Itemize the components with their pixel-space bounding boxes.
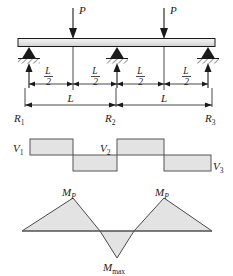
shear-label-v1: V1 [13,142,24,157]
dim-arrow-half-1-left [29,82,35,87]
support-middle-triangle [110,47,124,59]
reaction-label-2-subscript: 2 [112,118,116,127]
reaction-arrow-3-head [205,63,212,72]
moment-lobe-left-positive [22,198,100,231]
load-group-right: P [160,4,177,39]
dim-arrow-half-1-right [67,82,73,87]
dim-arrow-half-2-right [111,82,117,87]
dim-label-half-1-numerator: L [44,66,50,76]
dim-label-half-4-numerator: L [182,66,188,76]
moment-lobe-right-positive [134,198,212,231]
dim-arrow-half-3-right [158,82,164,87]
dim-label-half-3-denominator: 2 [138,77,143,87]
moment-label-mp-left: MP [61,186,76,201]
dim-label-half-1-denominator: 2 [46,77,51,87]
moment-label-mmax-subscript: max [112,267,125,276]
moment-label-mp-right: MP [154,186,169,201]
load-arrow-right-head [160,28,168,39]
load-label-left: P [78,4,86,16]
shear-label-v1-subscript: 1 [20,148,24,157]
load-group-left: P [69,4,86,39]
reaction-label-1-subscript: 1 [21,118,25,127]
dim-arrow-half-4-left [164,82,170,87]
support-right-triangle [201,47,215,59]
reaction-label-3: R3 [204,112,216,127]
support-left [18,47,40,64]
shear-label-v3: V3 [213,160,224,175]
reaction-arrow-1-head [26,63,33,72]
shear-block-1-positive [30,139,73,155]
reaction-label-2: R2 [104,112,116,127]
beam-member [18,39,215,47]
support-right-hatching [197,59,219,64]
dim-label-half-4-denominator: 2 [184,77,189,87]
beam-diagram-figure: P P [0,0,233,276]
reaction-arrow-2-head [114,63,121,72]
moment-label-mp-left-subscript: P [70,192,76,201]
span-dim-arrow-1-right [109,102,116,107]
shear-label-v3-subscript: 3 [220,166,224,175]
span-label-1: L [66,92,73,104]
moment-lobe-center-negative [100,231,134,258]
reaction-labels: R1 R2 R3 [13,112,216,127]
shear-block-2-negative [164,155,211,171]
dim-label-half-2-denominator: 2 [93,77,98,87]
dim-label-half-3-numerator: L [136,66,142,76]
reaction-label-3-subscript: 3 [212,118,216,127]
shear-label-v2-subscript: 2 [107,148,111,157]
load-label-right: P [169,4,177,16]
support-left-hatching [18,59,40,64]
span-dimension-row: L L [25,88,212,108]
moment-label-mp-right-subscript: P [163,192,169,201]
load-arrow-left-head [69,28,77,39]
moment-label-mmax: Mmax [102,261,125,276]
dim-label-half-2-numerator: L [91,66,97,76]
shear-label-v2: V2 [100,142,111,157]
moment-diagram: MP MP Mmax [22,186,212,276]
shear-block-2-positive [117,139,164,155]
support-left-triangle [22,47,36,59]
shear-diagram: V1 V2 V3 [13,139,224,175]
dim-arrow-half-3-left [117,82,123,87]
support-middle-hatching [106,59,128,64]
beam-diagram-svg: P P [0,0,233,276]
span-dim-arrow-2-right [205,102,212,107]
support-middle [106,47,128,64]
dim-arrow-half-2-left [73,82,79,87]
shear-block-1-negative [73,155,117,171]
span-dim-arrow-1-left [25,102,32,107]
reaction-label-1: R1 [13,112,25,127]
support-right [197,47,219,64]
span-label-2: L [160,92,167,104]
span-dim-arrow-2-left [116,102,123,107]
dim-arrow-half-4-right [202,82,208,87]
